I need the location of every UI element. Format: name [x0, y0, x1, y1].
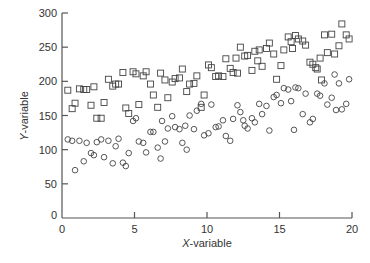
data-point-circle	[182, 123, 188, 129]
data-point-square	[281, 47, 287, 53]
data-point-square	[336, 43, 342, 49]
data-point-square	[317, 55, 323, 61]
y-tick-label: 0	[51, 209, 57, 221]
data-point-circle	[191, 126, 197, 132]
data-point-circle	[325, 102, 331, 108]
y-tick-label: 100	[39, 144, 57, 156]
data-point-circle	[77, 138, 83, 144]
data-point-circle	[113, 143, 119, 149]
data-point-circle	[169, 113, 175, 119]
data-point-square	[233, 55, 239, 61]
y-tick-label: 300	[39, 7, 57, 19]
x-tick-label: 5	[131, 223, 137, 235]
data-point-square	[321, 32, 327, 38]
data-point-square	[329, 31, 335, 37]
y-axis-ticks: 050100150200250300	[39, 7, 68, 221]
data-point-square	[256, 47, 262, 53]
y-tick-label: 250	[39, 41, 57, 53]
data-point-square	[274, 76, 280, 82]
data-point-circle	[264, 103, 270, 109]
data-point-circle	[165, 126, 171, 132]
data-point-circle	[230, 116, 236, 122]
data-point-circle	[339, 107, 345, 113]
data-point-circle	[116, 136, 122, 142]
data-point-circle	[333, 107, 339, 113]
series-squares	[65, 21, 352, 121]
scatter-chart: 05101520 050100150200250300 X-variable Y…	[0, 0, 370, 263]
data-point-circle	[252, 120, 258, 126]
data-point-square	[237, 44, 243, 50]
data-point-square	[201, 92, 207, 98]
y-tick-label: 200	[39, 75, 57, 87]
data-point-circle	[220, 117, 226, 123]
data-point-square	[120, 69, 126, 75]
data-point-circle	[240, 117, 246, 123]
data-point-circle	[259, 111, 265, 117]
data-point-circle	[278, 100, 284, 106]
y-tick-label: 150	[39, 110, 57, 122]
data-point-circle	[180, 140, 186, 146]
data-point-circle	[162, 139, 168, 145]
data-point-square	[150, 92, 156, 98]
y-tick-label: 50	[45, 178, 57, 190]
data-point-circle	[110, 161, 116, 167]
x-tick-label: 20	[346, 223, 358, 235]
data-point-circle	[303, 91, 309, 97]
data-point-circle	[81, 158, 87, 164]
data-point-circle	[159, 118, 165, 124]
x-tick-label: 15	[273, 223, 285, 235]
data-point-circle	[187, 113, 193, 119]
data-point-square	[155, 104, 161, 110]
data-point-square	[332, 51, 338, 57]
data-point-circle	[223, 133, 229, 139]
data-point-circle	[84, 140, 90, 146]
data-point-circle	[346, 76, 352, 82]
data-point-circle	[267, 128, 273, 134]
data-point-square	[165, 95, 171, 101]
data-point-circle	[291, 127, 297, 133]
data-point-circle	[143, 150, 149, 156]
data-point-square	[65, 87, 71, 93]
series-circles	[65, 72, 352, 173]
data-point-square	[88, 102, 94, 108]
data-point-square	[252, 48, 258, 54]
data-point-circle	[101, 154, 107, 160]
data-point-circle	[329, 95, 335, 101]
x-axis-ticks: 05101520	[59, 212, 358, 235]
data-point-circle	[126, 150, 132, 156]
data-point-circle	[184, 147, 190, 153]
data-point-square	[249, 67, 255, 73]
data-point-circle	[227, 138, 233, 144]
data-point-square	[179, 66, 185, 72]
data-point-circle	[288, 98, 294, 104]
data-point-square	[136, 102, 142, 108]
data-point-circle	[106, 138, 112, 144]
data-point-circle	[336, 81, 342, 87]
data-point-circle	[235, 102, 241, 108]
data-point-square	[290, 46, 296, 52]
data-point-circle	[158, 156, 164, 162]
data-point-square	[101, 100, 107, 106]
data-point-circle	[238, 109, 244, 115]
data-point-square	[194, 73, 200, 79]
data-point-square	[223, 56, 229, 62]
data-point-square	[278, 63, 284, 69]
data-point-circle	[300, 111, 306, 117]
data-point-circle	[155, 145, 161, 151]
data-point-square	[339, 21, 345, 27]
data-point-square	[158, 70, 164, 76]
data-point-square	[162, 77, 168, 83]
data-point-circle	[256, 101, 262, 107]
x-tick-label: 10	[201, 223, 213, 235]
data-point-square	[271, 51, 277, 57]
y-axis-label: Y-variable	[18, 91, 30, 141]
data-point-square	[94, 115, 100, 121]
data-point-square	[105, 76, 111, 82]
data-point-circle	[343, 101, 349, 107]
data-point-square	[147, 81, 153, 87]
data-point-circle	[249, 115, 255, 121]
data-point-square	[184, 89, 190, 95]
data-point-circle	[332, 72, 338, 78]
data-point-square	[324, 50, 330, 56]
data-point-square	[98, 115, 104, 121]
